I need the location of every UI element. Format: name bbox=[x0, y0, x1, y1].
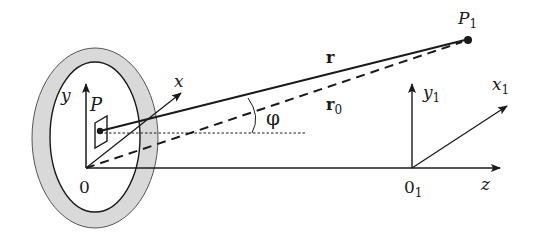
label-r0-sub: 0 bbox=[334, 103, 342, 117]
angle-arc bbox=[248, 98, 256, 133]
diagram-canvas: y x P 0 r r0 φ P1 y1 x1 01 z bbox=[0, 0, 535, 245]
label-O1-main: 0 bbox=[404, 177, 415, 197]
label-origin: 0 bbox=[79, 177, 90, 197]
label-x1-main: x bbox=[492, 74, 502, 94]
label-P: P bbox=[89, 94, 103, 115]
label-r0: r0 bbox=[326, 95, 342, 117]
vector-r-line bbox=[100, 40, 465, 131]
label-x: x bbox=[174, 71, 184, 91]
point-P1-dot bbox=[464, 36, 472, 44]
label-O1-sub: 1 bbox=[415, 186, 423, 200]
label-r: r bbox=[326, 48, 335, 67]
label-x1-sub: 1 bbox=[502, 83, 510, 97]
label-y: y bbox=[60, 85, 71, 105]
label-phi: φ bbox=[266, 106, 280, 130]
label-O1: 01 bbox=[404, 177, 422, 200]
label-P1: P1 bbox=[457, 8, 477, 31]
x1-axis bbox=[412, 106, 507, 168]
label-P1-sub: 1 bbox=[469, 17, 477, 31]
label-z: z bbox=[480, 174, 491, 194]
label-y1-main: y bbox=[422, 82, 433, 102]
label-y1: y1 bbox=[422, 82, 440, 105]
label-P1-main: P bbox=[457, 8, 470, 28]
label-y1-sub: 1 bbox=[433, 91, 441, 105]
label-x1: x1 bbox=[492, 74, 509, 97]
